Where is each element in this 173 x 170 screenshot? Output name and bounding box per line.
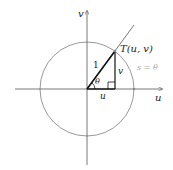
u-axis-label: u	[155, 92, 161, 103]
circle-axis-dot	[133, 88, 135, 90]
point-t-dot	[114, 50, 117, 53]
hypotenuse	[87, 51, 115, 89]
arc-length-label: s = θ	[137, 63, 158, 72]
angle-label: θ	[95, 77, 100, 86]
point-t-label: T(u, v)	[120, 43, 153, 54]
hypotenuse-label: 1	[93, 60, 99, 70]
opposite-label: v	[118, 66, 123, 76]
right-angle-mark	[108, 82, 115, 89]
adjacent-label: u	[100, 91, 106, 101]
v-axis-label: v	[78, 8, 84, 19]
unit-circle-diagram: v u T(u, v) 1 v u θ s = θ	[0, 0, 173, 170]
